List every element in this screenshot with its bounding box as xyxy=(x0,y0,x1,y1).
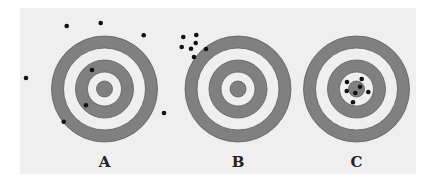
shot-dot xyxy=(193,41,198,46)
target-label: A xyxy=(98,153,111,171)
shot-dot xyxy=(162,111,167,116)
shot-dot xyxy=(141,33,146,38)
shot-dot xyxy=(204,47,209,52)
shot-dot xyxy=(353,91,358,96)
target-label: C xyxy=(351,153,363,171)
shot-dot xyxy=(61,119,66,124)
shot-dot xyxy=(344,89,349,94)
shot-dot xyxy=(181,35,186,40)
bullseye xyxy=(230,81,246,97)
shot-dot xyxy=(179,45,184,50)
shot-dot xyxy=(358,84,363,89)
accuracy-precision-diagram: ABC xyxy=(0,0,433,185)
shot-dot xyxy=(192,55,197,60)
shot-dot xyxy=(194,33,199,38)
bullseye xyxy=(97,81,113,97)
shot-dot xyxy=(366,90,371,95)
shot-dot xyxy=(84,103,89,108)
shot-dot xyxy=(345,80,350,85)
shot-dot xyxy=(98,21,103,26)
shot-dot xyxy=(24,76,29,81)
target-label: B xyxy=(232,153,245,171)
shot-dot xyxy=(359,77,364,82)
shot-dot xyxy=(90,68,95,73)
shot-dot xyxy=(189,46,194,51)
shot-dot xyxy=(351,100,356,105)
shot-dot xyxy=(64,24,69,29)
